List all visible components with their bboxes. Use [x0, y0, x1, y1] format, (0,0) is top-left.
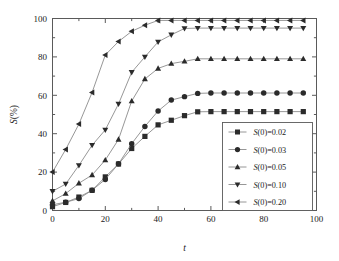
data-point-triangle-up [50, 198, 56, 203]
data-point-square [274, 109, 279, 114]
data-point-triangle-up [274, 56, 280, 61]
data-point-circle [235, 90, 240, 95]
data-point-square [222, 109, 227, 114]
data-point-square [142, 134, 147, 139]
data-point-triangle-up [116, 136, 122, 141]
y-tick-label: 20 [38, 167, 48, 177]
data-point-circle [103, 177, 108, 182]
data-point-square [208, 109, 213, 114]
data-point-triangle-up [63, 190, 69, 195]
y-tick-label: 40 [38, 129, 48, 139]
x-tick-label: 20 [101, 214, 111, 224]
data-point-square [156, 122, 161, 127]
data-point-triangle-down [89, 143, 95, 148]
data-point-triangle-down [221, 26, 227, 31]
y-tick-label: 80 [38, 52, 48, 62]
data-point-circle [248, 90, 253, 95]
legend-label: S(0)=0.05 [254, 163, 287, 172]
data-point-circle [76, 196, 81, 201]
x-tick-label: 0 [50, 214, 55, 224]
data-point-circle [142, 124, 147, 129]
x-tick-label: 60 [206, 214, 216, 224]
data-point-circle [169, 97, 174, 102]
y-axis-title: S(%) [9, 105, 20, 124]
legend-label: S(0)=0.20 [254, 198, 287, 207]
data-point-square [195, 109, 200, 114]
x-axis-title: t [183, 243, 186, 253]
data-point-square [182, 113, 187, 118]
data-point-triangle-up [195, 56, 201, 61]
data-point-triangle-down [182, 26, 188, 31]
data-point-triangle-down [234, 26, 240, 31]
data-point-square [301, 109, 306, 114]
data-point-circle [274, 90, 279, 95]
data-point-circle [195, 91, 200, 96]
data-point-triangle-up [287, 56, 293, 61]
data-point-triangle-left [142, 22, 147, 28]
data-point-triangle-up [234, 56, 240, 61]
y-tick-label: 60 [38, 91, 48, 101]
data-point-triangle-up [248, 56, 254, 61]
data-point-square [235, 109, 240, 114]
data-point-triangle-left [63, 146, 68, 152]
data-point-triangle-down [300, 26, 306, 31]
line-chart: 020406080100020406080100 S(0)=0.02S(0)=0… [0, 0, 339, 261]
data-point-circle [89, 187, 94, 192]
data-point-triangle-up [300, 56, 306, 61]
data-point-circle [155, 108, 160, 113]
data-point-triangle-down [261, 26, 267, 31]
x-tick-label: 40 [154, 214, 164, 224]
data-point-triangle-up [221, 56, 227, 61]
chart-figure: 020406080100020406080100 S(0)=0.02S(0)=0… [0, 0, 339, 261]
data-point-triangle-up [208, 56, 214, 61]
legend-label: S(0)=0.02 [254, 128, 287, 137]
data-point-triangle-up [102, 157, 108, 162]
data-point-circle [301, 90, 306, 95]
data-point-triangle-up [142, 76, 148, 81]
chart-legend: S(0)=0.02S(0)=0.03S(0)=0.05S(0)=0.10S(0)… [223, 123, 313, 211]
legend-label: S(0)=0.10 [254, 181, 287, 190]
data-point-square [261, 109, 266, 114]
data-point-circle [287, 90, 292, 95]
data-point-triangle-down [287, 26, 293, 31]
data-point-circle [63, 200, 68, 205]
y-tick-label: 0 [43, 206, 48, 216]
data-point-triangle-down [63, 182, 69, 187]
data-point-circle [235, 147, 240, 152]
data-point-circle [129, 141, 134, 146]
data-point-triangle-down [274, 26, 280, 31]
data-point-square [248, 109, 253, 114]
data-point-square [235, 130, 240, 135]
data-point-circle [261, 90, 266, 95]
data-point-square [169, 118, 174, 123]
data-point-triangle-down [129, 70, 135, 75]
legend-label: S(0)=0.03 [254, 146, 287, 155]
data-point-triangle-down [208, 26, 214, 31]
y-tick-label: 100 [34, 14, 48, 24]
data-point-triangle-down [116, 102, 122, 107]
data-point-triangle-down [248, 26, 254, 31]
data-point-circle [208, 90, 213, 95]
x-tick-label: 100 [310, 214, 324, 224]
data-point-triangle-up [76, 180, 82, 185]
data-point-triangle-down [168, 33, 174, 38]
data-point-triangle-up [261, 56, 267, 61]
data-point-circle [182, 94, 187, 99]
data-point-circle [221, 90, 226, 95]
data-point-square [288, 109, 293, 114]
data-point-triangle-up [129, 98, 135, 103]
x-tick-label: 80 [259, 214, 269, 224]
data-point-circle [116, 161, 121, 166]
data-point-triangle-left [76, 121, 81, 127]
